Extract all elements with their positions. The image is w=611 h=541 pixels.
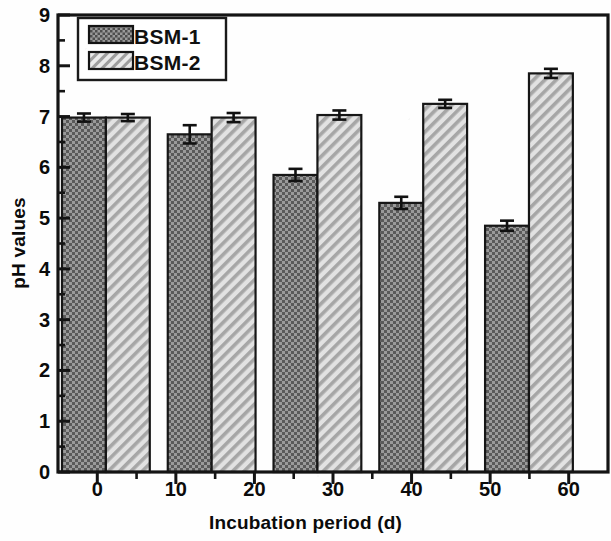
x-tick-label-50: 50: [465, 478, 515, 501]
bar-bsm-1-0: [62, 118, 106, 472]
bar-bsm-1-30: [379, 203, 423, 472]
x-tick-label-40: 40: [387, 478, 437, 501]
y-tick-label-0: 0: [16, 461, 50, 484]
y-tick-label-5: 5: [16, 207, 50, 230]
x-tick-label-10: 10: [151, 478, 201, 501]
x-tick-label-60: 60: [544, 478, 594, 501]
y-tick-label-2: 2: [16, 359, 50, 382]
bar-bsm-1-40: [485, 226, 529, 472]
ph-values-bar-chart: pH values Incubation period (d) 01234567…: [0, 0, 611, 541]
y-tick-label-4: 4: [16, 257, 50, 280]
bar-bsm-2-0: [106, 118, 150, 472]
y-axis-title: pH values: [8, 178, 30, 308]
y-tick-label-3: 3: [16, 308, 50, 331]
bar-bsm-2-40: [529, 73, 573, 472]
y-tick-label-6: 6: [16, 156, 50, 179]
y-tick-label-1: 1: [16, 410, 50, 433]
y-tick-label-9: 9: [16, 4, 50, 27]
x-tick-label-0: 0: [72, 478, 122, 501]
x-tick-label-20: 20: [229, 478, 279, 501]
chart-canvas: [0, 0, 611, 541]
legend-label-bsm-2: BSM-2: [134, 51, 201, 75]
bar-bsm-2-10: [212, 118, 256, 472]
legend-label-bsm-1: BSM-1: [134, 25, 201, 49]
y-tick-label-8: 8: [16, 54, 50, 77]
bar-series-group: [62, 73, 573, 472]
x-axis-title: Incubation period (d): [0, 512, 611, 534]
bar-bsm-1-20: [274, 175, 318, 472]
bar-bsm-1-10: [168, 134, 212, 472]
x-tick-label-30: 30: [308, 478, 358, 501]
bar-bsm-2-20: [317, 115, 361, 472]
bar-bsm-2-30: [423, 104, 467, 472]
legend-swatch-bsm-2: [89, 52, 133, 69]
legend-swatch-bsm-1: [89, 26, 133, 43]
y-tick-label-7: 7: [16, 105, 50, 128]
